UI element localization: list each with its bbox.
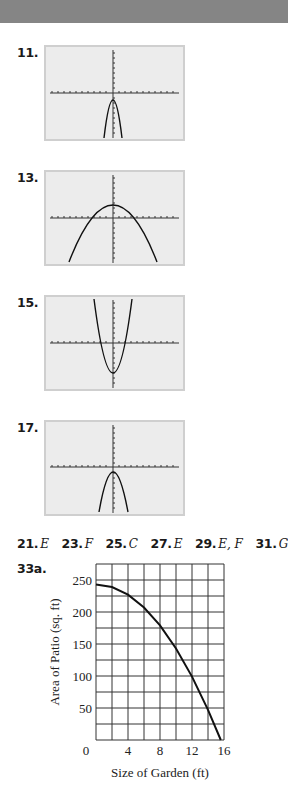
exercise-17-label: 17. [17,420,38,435]
answer-31: 31.G [255,536,288,551]
y-axis-label: Area of Patio (sq. ft) [47,598,62,705]
answers-row: 21.E 23.F 25.C 27.E 29.E, F 31.G [17,536,288,551]
chart-grid [96,564,224,740]
exercise-15-label: 15. [17,295,38,310]
chart-curve [96,585,221,741]
svg-text:250: 250 [73,573,93,588]
exercise-11-graph [44,45,185,141]
svg-text:12: 12 [186,743,199,758]
x-axis-label: Size of Garden (ft) [111,765,209,780]
answer-25: 25.C [106,536,138,551]
answer-29: 29.E, F [195,536,243,551]
answer-27: 27.E [150,536,182,551]
exercise-13-label: 13. [17,170,38,185]
svg-text:0: 0 [83,743,90,758]
exercise-11-label: 11. [17,45,38,60]
exercise-17-graph [44,420,185,516]
x-tick-labels: 0481216 [83,743,231,758]
y-tick-labels: 50100150200250 [73,573,93,716]
svg-text:150: 150 [73,637,93,652]
svg-text:8: 8 [157,743,164,758]
header-bar [0,0,288,23]
patio-area-chart: 50100150200250 0481216 Size of Garden (f… [0,560,288,790]
svg-text:4: 4 [125,743,132,758]
exercise-13-graph [44,170,185,266]
svg-text:200: 200 [73,605,93,620]
svg-text:16: 16 [218,743,232,758]
svg-text:100: 100 [73,669,93,684]
exercise-15-graph [44,295,185,391]
svg-text:50: 50 [79,701,92,716]
answer-23: 23.F [62,536,94,551]
answer-21: 21.E [17,536,49,551]
